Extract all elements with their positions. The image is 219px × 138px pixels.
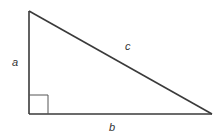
- label-a: a: [12, 56, 18, 68]
- label-c: c: [125, 40, 131, 52]
- label-b: b: [109, 121, 115, 133]
- right-triangle-diagram: a c b: [0, 0, 219, 138]
- hypotenuse-c-line: [29, 11, 212, 114]
- right-angle-marker: [29, 95, 48, 114]
